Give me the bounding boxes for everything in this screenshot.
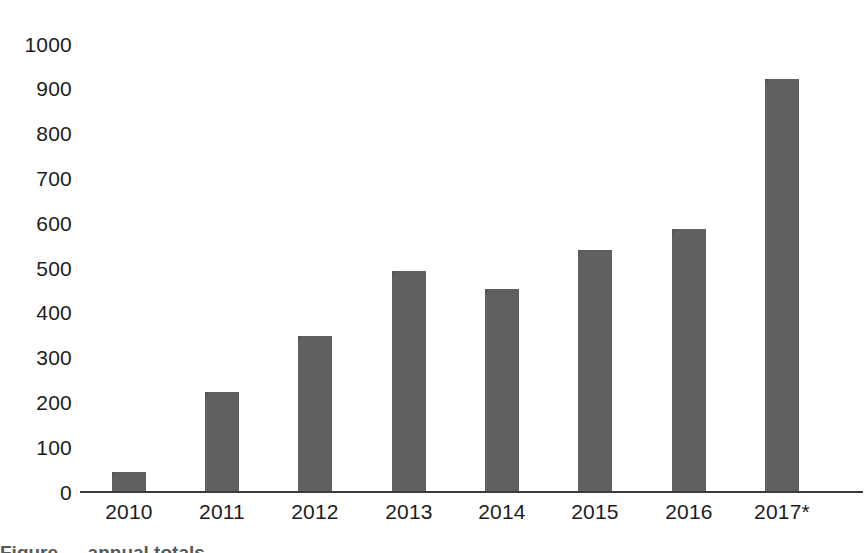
y-tick-label-1000: 1000	[8, 34, 72, 55]
y-tick-label-800: 800	[8, 123, 72, 144]
bar-chart: 1000 900 800 700 600 500 400 300 200 100…	[0, 0, 867, 553]
y-tick-label-300: 300	[8, 347, 72, 368]
x-tick-label-2017: 2017*	[727, 500, 837, 524]
y-tick-label-0: 0	[8, 482, 72, 503]
y-tick-label-500: 500	[8, 258, 72, 279]
y-tick-label-100: 100	[8, 437, 72, 458]
bar-2016	[672, 229, 706, 491]
bar-2010	[112, 472, 146, 491]
bar-2017	[765, 79, 799, 491]
plot-area: 2010 2011 2012 2013 2014 2015 2016 2017*	[80, 0, 867, 553]
y-tick-label-700: 700	[8, 168, 72, 189]
caption-fragment: Figure — annual totals	[0, 543, 867, 553]
bar-2014	[485, 289, 519, 491]
y-tick-label-400: 400	[8, 302, 72, 323]
y-tick-label-900: 900	[8, 78, 72, 99]
bar-2013	[392, 271, 426, 491]
y-tick-label-600: 600	[8, 213, 72, 234]
bar-2015	[578, 250, 612, 491]
bar-2012	[298, 336, 332, 491]
bar-2011	[205, 392, 239, 491]
y-tick-label-200: 200	[8, 392, 72, 413]
y-axis: 1000 900 800 700 600 500 400 300 200 100…	[8, 0, 72, 553]
x-axis-line	[80, 491, 863, 493]
